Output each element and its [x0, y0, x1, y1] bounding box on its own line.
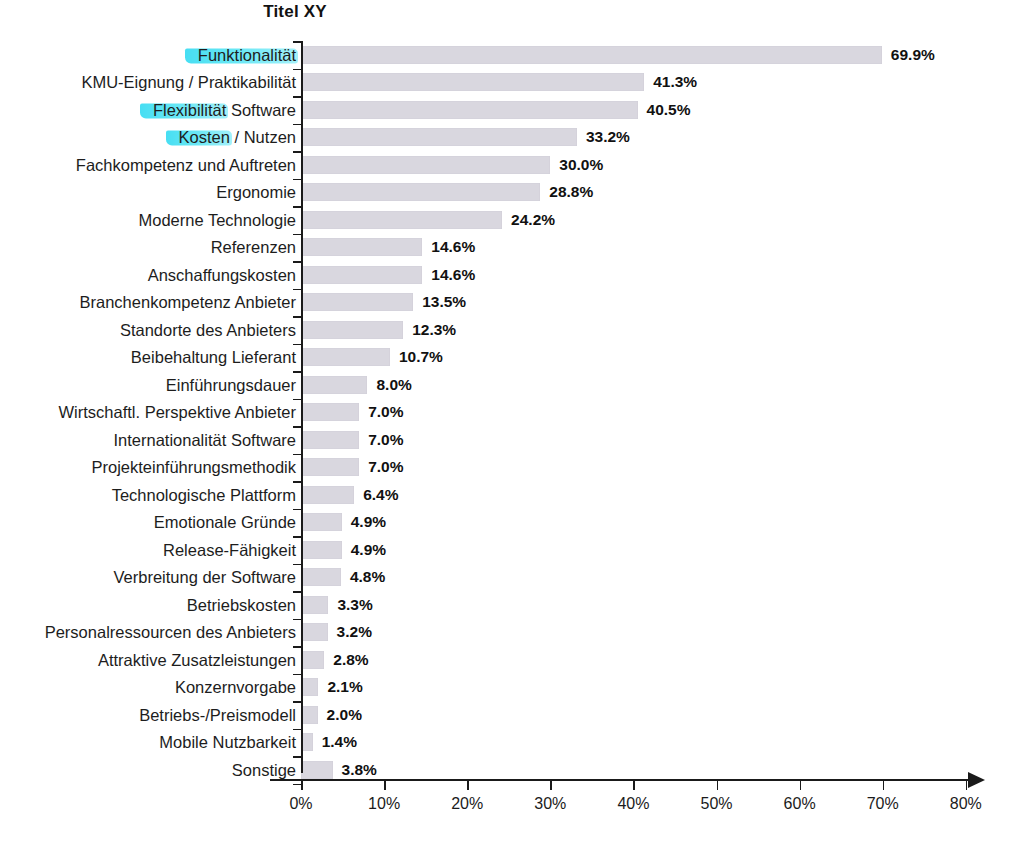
x-axis-tick — [717, 781, 719, 790]
y-axis-tick — [293, 96, 302, 98]
chart-row: Anschaffungskosten14.6% — [0, 261, 1009, 289]
bar-value-label: 7.0% — [368, 458, 403, 476]
y-axis-tick — [293, 674, 302, 676]
x-axis-line — [270, 779, 970, 781]
x-axis-tick-label: 30% — [534, 795, 566, 813]
chart-row: Internationalität Software7.0% — [0, 426, 1009, 454]
x-axis-tick — [883, 781, 885, 790]
x-axis-tick-label: 20% — [451, 795, 483, 813]
x-axis-tick — [800, 781, 802, 790]
category-label: Verbreitung der Software — [113, 568, 296, 587]
category-label: Personalressourcen des Anbieters — [45, 623, 296, 642]
bar — [301, 376, 367, 394]
x-axis-tick — [301, 781, 303, 790]
category-label: Einführungsdauer — [166, 375, 296, 394]
bar-value-label: 14.6% — [431, 238, 475, 256]
category-label: Funktionalität — [198, 45, 296, 64]
highlighter-mark: Funktionalität — [198, 45, 296, 64]
y-axis-tick — [293, 536, 302, 538]
bar — [301, 403, 359, 421]
bar — [301, 73, 644, 91]
bar-value-label: 3.3% — [337, 596, 372, 614]
bar — [301, 513, 342, 531]
category-label: Standorte des Anbieters — [120, 320, 296, 339]
bar — [301, 293, 413, 311]
chart-row: Betriebs-/Preismodell2.0% — [0, 701, 1009, 729]
bar — [301, 458, 359, 476]
bar-value-label: 3.2% — [337, 623, 372, 641]
bar-value-label: 2.0% — [327, 706, 362, 724]
category-label: Moderne Technologie — [139, 210, 296, 229]
bar-value-label: 1.4% — [322, 733, 357, 751]
y-axis-tick — [293, 564, 302, 566]
x-axis-tick-label: 80% — [950, 795, 982, 813]
x-axis-arrow-icon — [968, 772, 985, 788]
y-axis-tick — [293, 729, 302, 731]
bar — [301, 128, 577, 146]
bar-value-label: 69.9% — [891, 46, 935, 64]
x-axis-tick-label: 10% — [368, 795, 400, 813]
category-label: Anschaffungskosten — [148, 265, 296, 284]
bar-value-label: 2.1% — [327, 678, 362, 696]
chart-row: Personalressourcen des Anbieters3.2% — [0, 619, 1009, 647]
bar-value-label: 7.0% — [368, 403, 403, 421]
chart-row: Beibehaltung Lieferant10.7% — [0, 344, 1009, 372]
y-axis-tick — [293, 481, 302, 483]
chart-row: Attraktive Zusatzleistungen2.8% — [0, 646, 1009, 674]
highlighter-mark: Flexibilität — [153, 100, 226, 119]
chart-row: Ergonomie28.8% — [0, 179, 1009, 207]
bar — [301, 156, 550, 174]
chart-row: Funktionalität69.9% — [0, 41, 1009, 69]
bar-value-label: 24.2% — [511, 211, 555, 229]
x-axis-tick — [384, 781, 386, 790]
category-label: KMU-Eignung / Praktikabilität — [81, 73, 296, 92]
category-label: Konzernvorgabe — [175, 678, 296, 697]
bar-value-label: 28.8% — [549, 183, 593, 201]
chart-row: Wirtschaftl. Perspektive Anbieter7.0% — [0, 399, 1009, 427]
bar — [301, 46, 882, 64]
y-axis-tick — [293, 646, 302, 648]
chart-row: Flexibilität Software40.5% — [0, 96, 1009, 124]
chart-row: Release-Fähigkeit4.9% — [0, 536, 1009, 564]
x-axis-tick-label: 0% — [289, 795, 312, 813]
category-label: Fachkompetenz und Auftreten — [76, 155, 296, 174]
bar — [301, 761, 333, 779]
bar-chart: Titel XY Funktionalität69.9%KMU-Eignung … — [0, 0, 1009, 850]
bar-value-label: 4.9% — [351, 541, 386, 559]
bar-value-label: 8.0% — [376, 376, 411, 394]
chart-row: Betriebskosten3.3% — [0, 591, 1009, 619]
category-label: Technologische Plattform — [112, 485, 296, 504]
x-axis-tick — [550, 781, 552, 790]
bar — [301, 541, 342, 559]
category-label: Ergonomie — [216, 183, 296, 202]
y-axis-tick — [293, 509, 302, 511]
bar-value-label: 12.3% — [412, 321, 456, 339]
category-label: Projekteinführungsmethodik — [91, 458, 296, 477]
chart-row: Verbreitung der Software4.8% — [0, 564, 1009, 592]
bar — [301, 486, 354, 504]
y-axis-tick — [293, 399, 302, 401]
bar — [301, 706, 318, 724]
y-axis-tick — [293, 151, 302, 153]
chart-row: Emotionale Gründe4.9% — [0, 509, 1009, 537]
chart-row: KMU-Eignung / Praktikabilität41.3% — [0, 69, 1009, 97]
y-axis-tick — [293, 591, 302, 593]
chart-row: Branchenkompetenz Anbieter13.5% — [0, 289, 1009, 317]
bar — [301, 238, 422, 256]
bar — [301, 596, 328, 614]
chart-row: Standorte des Anbieters12.3% — [0, 316, 1009, 344]
bar-value-label: 3.8% — [342, 761, 377, 779]
category-label: Referenzen — [211, 238, 296, 257]
category-label: Attraktive Zusatzleistungen — [98, 650, 296, 669]
chart-row: Mobile Nutzbarkeit1.4% — [0, 729, 1009, 757]
bar-value-label: 4.8% — [350, 568, 385, 586]
highlighter-mark: Kosten — [179, 128, 230, 147]
x-axis-tick — [966, 781, 968, 790]
y-axis-tick — [293, 206, 302, 208]
x-axis-tick-label: 60% — [784, 795, 816, 813]
y-axis-tick — [293, 41, 302, 43]
bar — [301, 651, 324, 669]
y-axis-tick — [293, 261, 302, 263]
category-label: Betriebs-/Preismodell — [139, 705, 296, 724]
category-label: Internationalität Software — [113, 430, 296, 449]
